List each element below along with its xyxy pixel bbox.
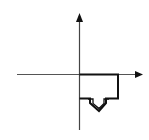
y-axis bbox=[76, 13, 83, 130]
rectangle-with-down-arrow-shape bbox=[80, 75, 119, 112]
y-axis-arrowhead-icon bbox=[76, 13, 83, 22]
coordinate-diagram bbox=[0, 0, 149, 140]
diagram-canvas bbox=[0, 0, 149, 140]
x-axis-arrowhead-icon bbox=[135, 71, 143, 78]
